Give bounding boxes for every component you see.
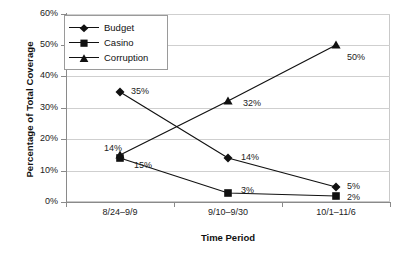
value-label-budget-1: 35% <box>131 86 149 96</box>
marker-budget-1 <box>116 88 125 97</box>
value-label-budget-2: 14% <box>241 152 259 162</box>
series-layer <box>0 0 400 253</box>
value-label-corruption-2: 32% <box>243 98 261 108</box>
marker-casino-2 <box>224 189 232 197</box>
square-marker-icon <box>69 37 99 49</box>
legend-label-casino: Casino <box>104 37 134 49</box>
line-chart: Percentage of Total Coverage 60% 50% 40%… <box>0 0 400 253</box>
marker-casino-3 <box>332 192 340 200</box>
marker-corruption-2 <box>223 96 232 104</box>
value-label-casino-3: 2% <box>347 192 360 202</box>
legend: Budget Casino Corruption <box>64 15 168 70</box>
value-label-corruption-1: 15% <box>134 160 152 170</box>
series-line-budget <box>120 92 336 187</box>
legend-item-corruption[interactable]: Corruption <box>69 50 162 65</box>
x-axis-title: Time Period <box>66 232 390 243</box>
value-label-corruption-3: 50% <box>347 52 365 62</box>
marker-corruption-3 <box>331 40 340 48</box>
legend-item-budget[interactable]: Budget <box>69 20 162 35</box>
marker-budget-3 <box>332 183 341 192</box>
marker-budget-2 <box>224 154 233 163</box>
legend-item-casino[interactable]: Casino <box>69 35 162 50</box>
value-label-casino-1: 14% <box>104 143 122 153</box>
value-label-casino-2: 3% <box>241 185 254 195</box>
diamond-marker-icon <box>69 22 99 34</box>
triangle-marker-icon <box>69 52 99 64</box>
legend-label-corruption: Corruption <box>104 52 148 64</box>
value-label-budget-3: 5% <box>347 181 360 191</box>
legend-label-budget: Budget <box>104 22 134 34</box>
